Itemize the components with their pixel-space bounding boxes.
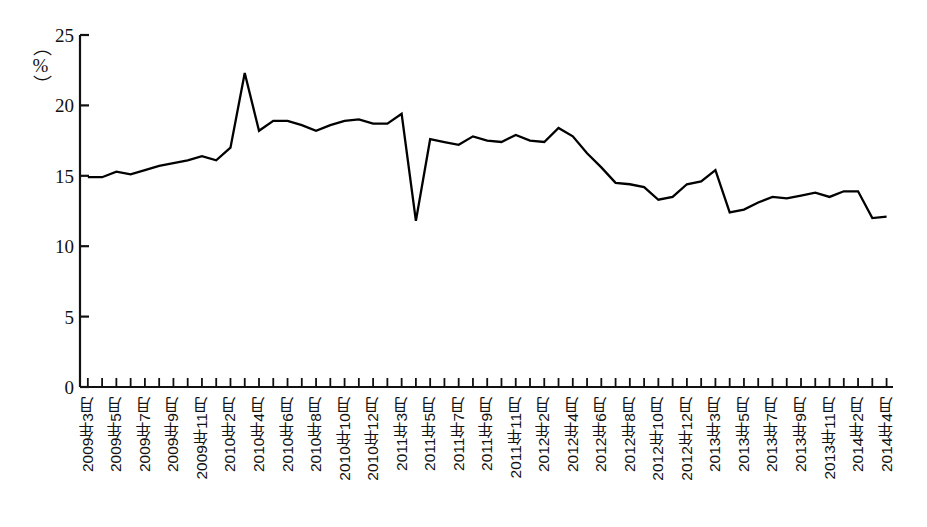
data-series-line bbox=[88, 73, 887, 221]
x-axis-ticks bbox=[88, 378, 887, 387]
x-axis bbox=[80, 378, 893, 387]
plot-area bbox=[0, 0, 927, 527]
y-axis-ticks bbox=[80, 35, 89, 387]
line-chart: （%） 0510152025 2009年3月2009年5月2009年7月2009… bbox=[0, 0, 927, 527]
y-axis bbox=[80, 35, 89, 387]
